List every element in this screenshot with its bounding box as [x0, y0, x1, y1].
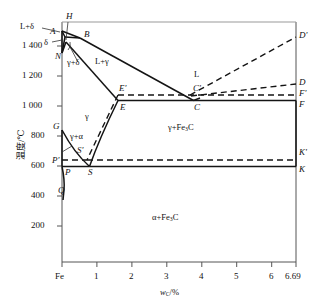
- point-label-Kp: K': [299, 148, 307, 157]
- point-label-E: E: [120, 103, 126, 112]
- point-label-Fp: F': [299, 89, 306, 98]
- region-label-gamma-alpha: γ+α: [70, 132, 83, 141]
- point-label-F: F: [299, 100, 305, 109]
- x-tick-1: 1: [94, 272, 99, 281]
- point-label-B: B: [84, 30, 90, 39]
- y-tick-1200: 1 200: [22, 71, 42, 80]
- point-label-G: G: [53, 122, 60, 131]
- x-axis-title-unit: /%: [170, 287, 179, 297]
- region-label-gamma-delta: γ+δ: [67, 58, 80, 67]
- y-tick-400: 400: [31, 191, 45, 200]
- gamma-fe3c-suffix: C: [188, 122, 194, 132]
- point-label-C: C: [194, 103, 200, 112]
- point-label-Pp: P': [52, 156, 59, 165]
- x-tick-669: 6.69: [285, 272, 301, 281]
- point-label-K: K: [299, 165, 305, 174]
- point-label-Dp: D': [299, 31, 307, 40]
- x-tick-3: 3: [164, 272, 169, 281]
- region-label-alpha-cementite: α+Fe3C: [152, 213, 178, 223]
- y-tick-600: 600: [31, 161, 45, 170]
- y-tick-1000: 1 000: [22, 101, 42, 110]
- y-axis-title: 温度/℃: [14, 129, 27, 160]
- phase-diagram-figure: 温度/℃ 1 400 1 200 1 000 800 600 400 200 F…: [0, 0, 319, 308]
- x-tick-5: 5: [234, 272, 239, 281]
- region-label-L: L: [194, 70, 199, 79]
- x-axis-title: wC/%: [160, 288, 179, 298]
- y-tick-800: 800: [31, 131, 45, 140]
- x-tick-fe: Fe: [55, 272, 64, 281]
- region-label-gamma-cementite: γ+Fe3C: [168, 123, 194, 133]
- region-label-L-delta: L+δ: [20, 22, 34, 31]
- point-label-P: P: [65, 168, 71, 177]
- point-label-H: H: [66, 12, 73, 21]
- alpha-fe3c-prefix: α+Fe: [152, 212, 170, 222]
- x-tick-6: 6: [269, 272, 274, 281]
- x-tick-2: 2: [129, 272, 134, 281]
- x-axis-ticks: [62, 262, 296, 267]
- point-label-S: S: [88, 168, 93, 177]
- point-label-A: A: [50, 27, 56, 36]
- y-tick-200: 200: [31, 221, 45, 230]
- point-label-D: D: [299, 78, 306, 87]
- point-label-N: N: [55, 52, 61, 61]
- point-label-Ep: E': [119, 84, 126, 93]
- y-tick-1400: 1 400: [22, 41, 42, 50]
- point-label-Sp: S': [77, 146, 83, 155]
- gamma-fe3c-prefix: γ+Fe: [168, 122, 185, 132]
- region-label-delta: δ: [44, 38, 48, 47]
- x-tick-4: 4: [199, 272, 204, 281]
- point-label-Cp: C': [193, 84, 201, 93]
- point-label-Q: Q: [58, 186, 65, 195]
- region-label-L-gamma: L+γ: [95, 57, 109, 66]
- alpha-fe3c-suffix: C: [173, 212, 179, 222]
- region-label-gamma: γ: [85, 112, 89, 121]
